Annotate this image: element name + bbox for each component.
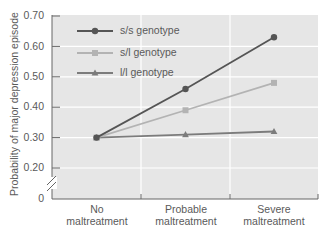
x-category-line: maltreatment <box>52 215 142 227</box>
legend-label-ss: s/s genotype <box>120 24 180 36</box>
marker-square <box>271 80 277 86</box>
line-chart: Probability of major depression episode … <box>0 0 326 232</box>
y-tick-label: 0.60 <box>0 40 44 52</box>
marker-square <box>183 107 189 113</box>
marker-square <box>92 50 98 56</box>
y-tick-label: 0.40 <box>0 100 44 112</box>
x-category-line: No <box>52 203 142 215</box>
x-category-severe-maltreatment: Severe maltreatment <box>229 203 319 227</box>
x-category-line: maltreatment <box>229 215 319 227</box>
marker-circle <box>93 134 99 140</box>
y-tick-label: 0 <box>0 192 44 204</box>
x-category-line: Severe <box>229 203 319 215</box>
x-category-probable-maltreatment: Probable maltreatment <box>141 203 231 227</box>
x-category-line: Probable <box>141 203 231 215</box>
x-category-line: maltreatment <box>141 215 231 227</box>
y-tick-label: 0.20 <box>0 161 44 173</box>
y-tick-label: 0.50 <box>0 70 44 82</box>
y-tick-label: 0.30 <box>0 131 44 143</box>
y-tick-label: 0.70 <box>0 9 44 21</box>
x-category-no-maltreatment: No maltreatment <box>52 203 142 227</box>
marker-circle <box>271 34 277 40</box>
marker-circle <box>182 86 188 92</box>
marker-circle <box>92 28 98 34</box>
legend-label-sl: s/l genotype <box>120 46 177 58</box>
legend-label-ll: l/l genotype <box>120 66 174 78</box>
